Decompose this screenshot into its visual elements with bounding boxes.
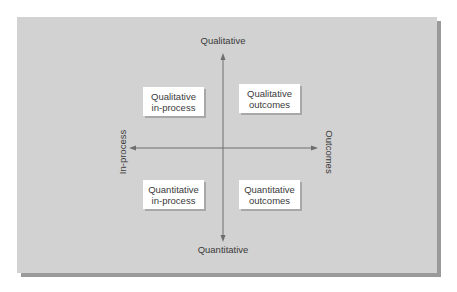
- quadrant-line2: outcomes: [249, 99, 290, 110]
- quadrant-line2: in-process: [152, 195, 196, 206]
- quadrant-quantitative-in-process: Quantitative in-process: [143, 180, 204, 209]
- arrow-up-icon: [221, 53, 226, 60]
- arrow-down-icon: [221, 235, 226, 242]
- quadrant-line1: Qualitative: [151, 91, 196, 102]
- arrow-right-icon: [311, 146, 318, 151]
- quadrant-qualitative-in-process: Qualitative in-process: [143, 87, 204, 116]
- axis-label-left: In-process: [117, 130, 128, 174]
- quadrant-line2: in-process: [152, 102, 196, 113]
- quadrant-quantitative-outcomes: Quantitative outcomes: [239, 180, 300, 209]
- quadrant-line2: outcomes: [249, 195, 290, 206]
- axis-label-bottom: Quantitative: [198, 244, 249, 255]
- axis-label-right: Outcomes: [324, 130, 335, 173]
- quadrant-line1: Qualitative: [247, 88, 292, 99]
- quadrant-qualitative-outcomes: Qualitative outcomes: [239, 84, 300, 113]
- axis-label-top: Qualitative: [201, 35, 246, 46]
- quadrant-line1: Quantitative: [244, 184, 295, 195]
- arrow-left-icon: [129, 146, 136, 151]
- quadrant-line1: Quantitative: [148, 184, 199, 195]
